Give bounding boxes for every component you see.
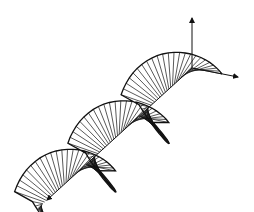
field-vector-spokes [15,52,222,212]
field-vector [104,104,114,139]
field-vector [62,150,64,185]
helix-envelope [15,52,222,212]
field-vector [180,56,196,80]
field-vector [178,54,191,81]
propagation-axis-arrow [47,68,192,200]
field-vector [173,52,175,85]
field-vector [125,103,138,130]
diagram-canvas [0,0,254,212]
helix-curve [15,52,222,212]
field-vector [163,54,169,89]
field-vector [119,101,121,134]
field-vector [71,151,84,178]
field-vector [185,62,210,74]
field-vector [157,56,167,91]
field-vector [109,103,115,138]
transverse-axis-arrow [192,68,238,77]
field-vector [168,53,170,88]
field-vector [56,151,62,186]
field-vector [115,101,117,135]
field-vector [66,149,68,182]
field-vector [51,153,61,188]
helical-wave-diagram [0,0,254,212]
